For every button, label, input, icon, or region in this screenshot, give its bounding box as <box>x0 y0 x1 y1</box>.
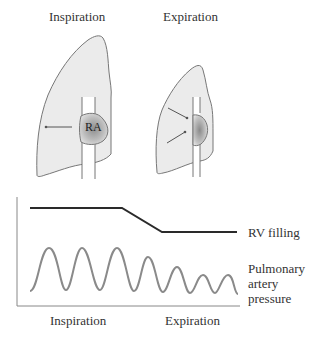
rv-filling-line <box>30 208 237 232</box>
pa-label-line-2: artery <box>248 277 278 291</box>
x-label-expiration: Expiration <box>165 314 220 328</box>
pulmonary-artery-pressure-wave <box>30 248 238 294</box>
inspiration-lung <box>37 36 112 177</box>
x-label-inspiration: Inspiration <box>50 314 106 328</box>
graph-axes <box>17 197 240 306</box>
ra-label: RA <box>85 121 102 134</box>
pa-label-line-3: pressure <box>248 292 291 306</box>
expiration-title: Expiration <box>163 10 218 24</box>
pa-label-line-1: Pulmonary <box>248 262 305 276</box>
inspiration-title: Inspiration <box>49 10 105 24</box>
rv-filling-label: RV filling <box>248 226 300 240</box>
